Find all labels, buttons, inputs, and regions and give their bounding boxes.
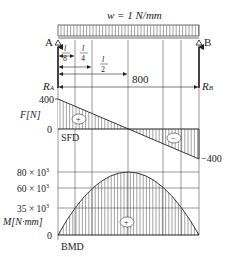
svg-text:l: l xyxy=(64,44,67,53)
sfd-negative-sign: − xyxy=(171,134,176,143)
bmd-tick-35: 35 × 103 xyxy=(17,203,49,214)
dim-l2: l 2 xyxy=(100,55,108,74)
sfd-plot xyxy=(55,99,199,159)
sfd-tick-400: 400 xyxy=(39,94,54,105)
distributed-load xyxy=(58,25,199,38)
beam-diagram: w = 1 N/mm A B l 8 l 4 l 2 800 RA RB 400… xyxy=(0,0,235,257)
bmd-tick-0: 0 xyxy=(47,230,52,241)
dim-l8: l 8 xyxy=(62,44,70,63)
bmd-axis-label: M[N·mm] xyxy=(2,216,43,227)
bmd-name: BMD xyxy=(61,241,84,252)
sfd-tick-neg400: −400 xyxy=(201,153,222,164)
reaction-b-label: RB xyxy=(201,80,214,92)
svg-text:2: 2 xyxy=(101,65,105,74)
bmd-positive-sign: + xyxy=(124,218,129,227)
support-a-label: A xyxy=(45,36,53,48)
support-a-icon xyxy=(55,40,61,45)
bmd-tick-60: 60 × 103 xyxy=(17,183,49,194)
sfd-name: SFD xyxy=(61,132,79,143)
dimension-lines xyxy=(59,56,198,87)
svg-text:l: l xyxy=(102,55,105,64)
dim-l4: l 4 xyxy=(80,44,88,63)
support-b-icon xyxy=(196,40,202,45)
sfd-tick-0: 0 xyxy=(47,124,52,135)
reaction-a-label: RA xyxy=(42,80,55,92)
span-label: 800 xyxy=(132,73,149,85)
svg-text:l: l xyxy=(82,44,85,53)
support-b-label: B xyxy=(204,36,211,48)
sfd-positive-sign: + xyxy=(76,115,81,124)
load-label: w = 1 N/mm xyxy=(107,9,162,21)
svg-text:8: 8 xyxy=(63,54,67,63)
svg-text:4: 4 xyxy=(81,54,85,63)
sfd-axis-label: F[N] xyxy=(19,109,41,120)
bmd-tick-80: 80 × 103 xyxy=(17,167,49,178)
